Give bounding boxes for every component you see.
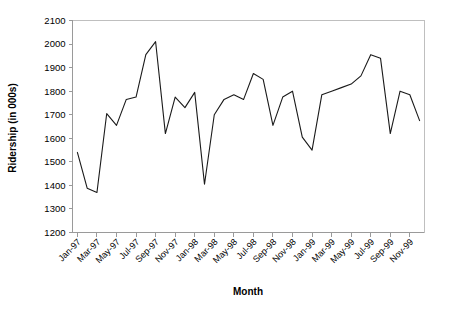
y-tick-mark-group	[69, 21, 73, 233]
ridership-line-chart: Ridership (in 000s) 12001300140015001600…	[0, 0, 453, 309]
y-tick-label: 1700	[44, 109, 65, 120]
data-series-line	[77, 42, 419, 193]
axis-frame	[73, 21, 425, 233]
y-tick-label-group: 1200130014001500160017001800190020002100	[44, 15, 65, 238]
y-tick-label: 2100	[44, 15, 65, 26]
y-tick-label: 1200	[44, 227, 65, 238]
y-tick-label: 1400	[44, 180, 65, 191]
y-tick-label: 1500	[44, 156, 65, 167]
x-axis-title: Month	[72, 286, 424, 297]
x-tick-label-group: Jan-97Mar-97May-97Jul-97Sep-97Nov-97Jan-…	[56, 237, 415, 265]
y-tick-label: 1300	[44, 203, 65, 214]
plot-area: 1200130014001500160017001800190020002100…	[0, 0, 453, 309]
y-tick-label: 1800	[44, 86, 65, 97]
y-tick-label: 1600	[44, 133, 65, 144]
x-tick-mark-group	[77, 233, 409, 237]
y-tick-label: 2000	[44, 38, 65, 49]
y-tick-label: 1900	[44, 62, 65, 73]
